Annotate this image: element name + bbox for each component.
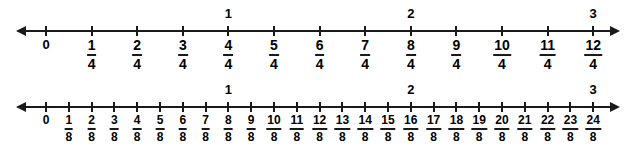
fraction-denominator: 4	[87, 57, 97, 72]
tick-mark	[341, 102, 343, 112]
tick-label-fraction: 18	[64, 114, 73, 145]
fraction: 88	[224, 114, 233, 144]
fraction-denominator: 8	[312, 131, 327, 144]
fraction-numerator: 8	[406, 38, 416, 53]
whole-number-label: 1	[225, 83, 232, 96]
fraction-numerator: 3	[178, 38, 188, 53]
fraction-denominator: 8	[289, 131, 304, 144]
fraction-denominator: 8	[178, 131, 187, 144]
tick-mark	[455, 26, 457, 36]
fraction: 128	[312, 114, 327, 144]
tick-label-whole: 0	[42, 38, 49, 52]
tick-label-fraction: 68	[178, 114, 187, 145]
tick-mark	[501, 26, 503, 36]
tick-label-fraction: 138	[335, 114, 350, 145]
fraction: 94	[451, 38, 461, 72]
fraction: 158	[380, 114, 395, 144]
tick-mark	[296, 102, 298, 112]
tick-label-fraction: 238	[563, 114, 578, 145]
fraction: 54	[269, 38, 279, 72]
tick-mark	[159, 102, 161, 112]
tick-label-value: 0	[42, 38, 49, 52]
fraction-denominator: 8	[201, 131, 210, 144]
fraction-denominator: 4	[269, 57, 279, 72]
fraction-denominator: 8	[247, 131, 256, 144]
fraction-numerator: 7	[201, 114, 210, 127]
fraction-denominator: 8	[266, 131, 281, 144]
fraction-denominator: 4	[584, 57, 602, 72]
tick-label-fraction: 248	[586, 114, 601, 145]
tick-label-fraction: 74	[360, 38, 370, 72]
fraction-denominator: 8	[472, 131, 487, 144]
tick-mark	[182, 102, 184, 112]
tick-mark	[478, 102, 480, 112]
tick-label-fraction: 64	[315, 38, 325, 72]
fraction-numerator: 19	[472, 114, 487, 127]
whole-number-label: 2	[407, 7, 414, 20]
fraction: 114	[539, 38, 556, 72]
number-line-figure: 1230142434445464748494104114124123018283…	[0, 0, 628, 149]
fraction-denominator: 4	[132, 57, 142, 72]
fraction-denominator: 8	[224, 131, 233, 144]
fraction-numerator: 13	[335, 114, 350, 127]
fraction: 198	[472, 114, 487, 144]
tick-label-fraction: 148	[358, 114, 373, 145]
fraction-denominator: 8	[64, 131, 73, 144]
fraction-denominator: 8	[449, 131, 464, 144]
fraction-numerator: 18	[449, 114, 464, 127]
tick-label-fraction: 98	[247, 114, 256, 145]
fraction: 168	[403, 114, 418, 144]
fraction-numerator: 4	[223, 38, 233, 53]
fraction: 24	[132, 38, 142, 72]
fraction-denominator: 8	[358, 131, 373, 144]
fraction-denominator: 4	[178, 57, 188, 72]
tick-mark	[455, 102, 457, 112]
fraction: 104	[493, 38, 511, 72]
fraction-numerator: 22	[540, 114, 555, 127]
fraction: 228	[540, 114, 555, 144]
tick-mark	[68, 102, 70, 112]
fraction: 58	[156, 114, 165, 144]
whole-number-label: 2	[407, 83, 414, 96]
fraction-numerator: 9	[451, 38, 461, 53]
fraction-numerator: 16	[403, 114, 418, 127]
fraction-denominator: 8	[540, 131, 555, 144]
fraction-denominator: 8	[156, 131, 165, 144]
fraction-numerator: 3	[110, 114, 119, 127]
fraction-numerator: 11	[289, 114, 304, 127]
tick-mark	[501, 102, 503, 112]
fraction-denominator: 8	[133, 131, 142, 144]
fraction: 18	[64, 114, 73, 144]
fraction: 98	[247, 114, 256, 144]
fraction: 148	[358, 114, 373, 144]
fraction-numerator: 12	[312, 114, 327, 127]
tick-label-fraction: 54	[269, 38, 279, 72]
fraction: 138	[335, 114, 350, 144]
fraction-numerator: 5	[269, 38, 279, 53]
fraction-numerator: 24	[586, 114, 601, 127]
tick-label-fraction: 14	[87, 38, 97, 72]
fraction: 188	[449, 114, 464, 144]
tick-mark	[91, 102, 93, 112]
tick-mark	[433, 102, 435, 112]
tick-mark	[592, 102, 594, 112]
tick-label-whole: 0	[43, 114, 50, 127]
fraction-denominator: 8	[380, 131, 395, 144]
fraction: 124	[584, 38, 602, 72]
tick-label-fraction: 188	[449, 114, 464, 145]
tick-label-fraction: 168	[403, 114, 418, 145]
fraction-denominator: 4	[360, 57, 370, 72]
tick-mark	[136, 102, 138, 112]
tick-label-fraction: 114	[539, 38, 556, 72]
whole-number-label: 3	[590, 7, 597, 20]
tick-label-fraction: 94	[451, 38, 461, 72]
tick-label-fraction: 158	[380, 114, 395, 145]
tick-mark	[136, 26, 138, 36]
tick-label-fraction: 44	[223, 38, 233, 72]
tick-mark	[227, 102, 229, 112]
tick-mark	[45, 102, 47, 112]
tick-label-fraction: 208	[494, 114, 509, 145]
fraction: 118	[289, 114, 304, 144]
fraction: 14	[87, 38, 97, 72]
fraction: 248	[586, 114, 601, 144]
